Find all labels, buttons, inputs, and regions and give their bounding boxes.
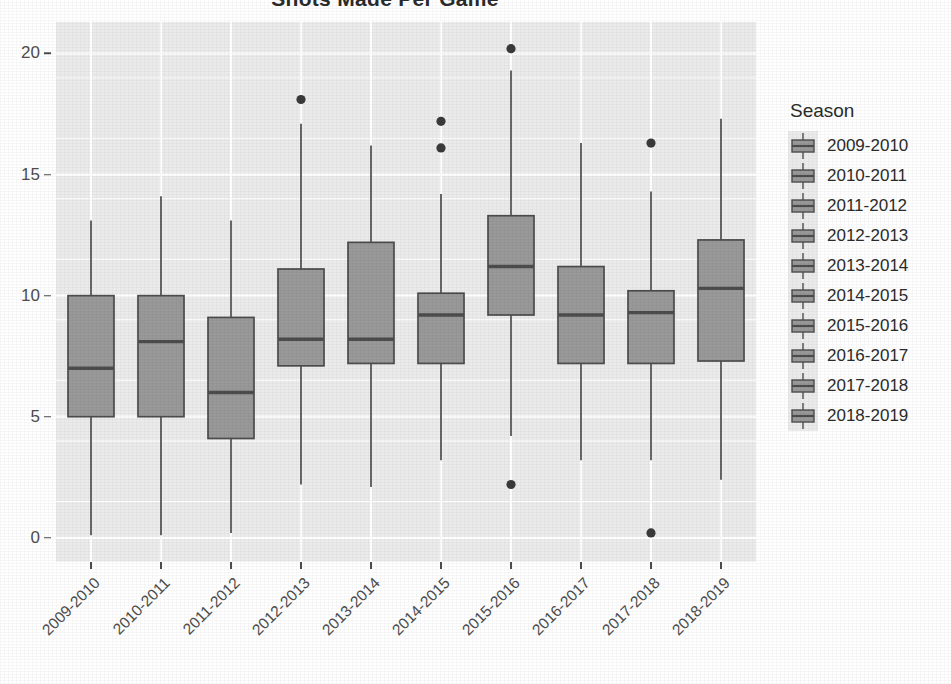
box-rect [628,291,674,364]
x-axis: 2009-20102010-20112011-20122012-20132013… [56,562,756,684]
x-tick-mark [510,562,512,569]
x-tick-mark [160,562,162,569]
box-rect [698,240,744,361]
outlier-point [436,117,445,126]
x-tick-mark [720,562,722,569]
x-tick-mark [580,562,582,569]
legend-key-boxplot-icon [788,371,818,401]
boxplot-group [558,143,604,460]
boxplot-group [208,221,254,533]
legend-key-boxplot-icon [788,131,818,161]
legend-key-boxplot-icon [788,401,818,431]
box-rect [208,317,254,438]
legend-item-label: 2016-2017 [827,346,908,366]
legend-key-boxplot-icon [788,251,818,281]
legend-key-boxplot-icon [788,281,818,311]
boxplot-group [348,145,394,486]
x-tick-mark [370,562,372,569]
y-tick-label: 10 [21,286,40,306]
legend-title: Season [790,100,951,122]
legend-item-label: 2014-2015 [827,286,908,306]
legend-key-boxplot-icon [788,311,818,341]
legend: Season 2009-20102010-20112011-20122012-2… [788,100,951,431]
box-rect [278,269,324,366]
outlier-point [646,528,655,537]
legend-items: 2009-20102010-20112011-20122012-20132013… [788,131,951,431]
boxplot-svg [56,22,756,562]
legend-item[interactable]: 2016-2017 [788,341,951,371]
boxplot-figure: Shots Made Per Game 05101520 2009-201020… [0,0,951,684]
legend-item-label: 2010-2011 [827,166,907,186]
y-axis: 05101520 [0,22,56,562]
legend-key-boxplot-icon [788,161,818,191]
box-rect [68,296,114,417]
legend-key-boxplot-icon [788,191,818,221]
legend-item[interactable]: 2015-2016 [788,311,951,341]
legend-item[interactable]: 2011-2012 [788,191,951,221]
legend-item-label: 2017-2018 [827,376,908,396]
y-tick-label: 0 [31,528,40,548]
y-tick-mark [44,174,51,176]
y-tick-mark [44,416,51,418]
legend-item-label: 2018-2019 [827,406,908,426]
legend-key-boxplot-icon [788,341,818,371]
legend-item-label: 2013-2014 [827,256,908,276]
x-tick-mark [300,562,302,569]
x-tick-mark [90,562,92,569]
outlier-point [506,44,515,53]
y-tick-label: 20 [21,43,40,63]
y-tick-mark [44,53,51,55]
x-tick-mark [230,562,232,569]
box-rect [418,293,464,363]
x-tick-mark [650,562,652,569]
legend-item-label: 2009-2010 [827,136,908,156]
legend-item[interactable]: 2018-2019 [788,401,951,431]
legend-item[interactable]: 2013-2014 [788,251,951,281]
y-tick-mark [44,537,51,539]
y-tick-label: 15 [21,165,40,185]
chart-title: Shots Made Per Game [0,0,770,11]
plot-panel [56,22,756,562]
outlier-point [296,95,305,104]
boxplot-group [488,44,534,489]
boxplot-group [138,196,184,535]
outlier-point [436,143,445,152]
boxplot-group [278,95,324,485]
box-rect [348,242,394,363]
outlier-point [646,138,655,147]
y-tick-label: 5 [31,407,40,427]
legend-item[interactable]: 2010-2011 [788,161,951,191]
x-tick-mark [440,562,442,569]
boxplot-group [68,221,114,536]
y-tick-mark [44,295,51,297]
boxplot-group [698,119,744,480]
legend-item[interactable]: 2014-2015 [788,281,951,311]
legend-item[interactable]: 2012-2013 [788,221,951,251]
outlier-point [506,480,515,489]
box-rect [138,296,184,417]
legend-item-label: 2015-2016 [827,316,908,336]
legend-key-boxplot-icon [788,221,818,251]
legend-item[interactable]: 2017-2018 [788,371,951,401]
legend-item[interactable]: 2009-2010 [788,131,951,161]
legend-item-label: 2011-2012 [827,196,907,216]
legend-item-label: 2012-2013 [827,226,908,246]
